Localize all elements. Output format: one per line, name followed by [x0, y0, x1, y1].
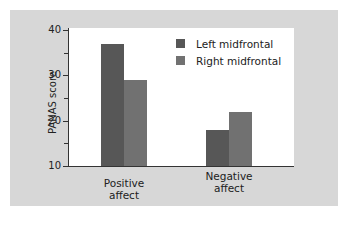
bar-right-negative: [229, 112, 252, 166]
y-axis-label: PANAS score: [47, 63, 58, 143]
y-tick-minor: [64, 143, 68, 144]
legend-label-right: Right midfrontal: [196, 56, 281, 66]
legend-label-left: Left midfrontal: [196, 39, 273, 49]
y-tick-major: [63, 166, 68, 167]
legend-swatch-right: [176, 56, 185, 65]
y-tick-major: [63, 30, 68, 31]
category-label-line: Positive: [89, 177, 159, 189]
y-axis: [68, 28, 69, 167]
bar-left-positive: [101, 44, 124, 166]
y-tick-label: 40: [41, 25, 61, 35]
category-label-line: affect: [194, 182, 264, 194]
y-tick-major: [63, 121, 68, 122]
x-axis: [68, 166, 294, 167]
y-tick-major: [63, 75, 68, 76]
bar-right-positive: [124, 80, 147, 166]
category-label-negative: Negative affect: [194, 170, 264, 194]
category-label-line: affect: [89, 189, 159, 201]
category-label-line: Negative: [194, 170, 264, 182]
y-tick-minor: [64, 53, 68, 54]
bar-left-negative: [206, 130, 229, 166]
y-tick-minor: [64, 98, 68, 99]
y-tick-label: 10: [41, 161, 61, 171]
legend-swatch-left: [176, 39, 185, 48]
category-label-positive: Positive affect: [89, 177, 159, 201]
